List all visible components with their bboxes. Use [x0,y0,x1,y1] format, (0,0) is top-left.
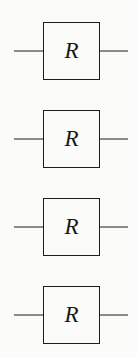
gate-label: R [64,127,78,150]
wire-left [14,227,44,228]
gate-label: R [64,215,78,238]
wire-left [14,315,44,316]
wire-right [99,227,128,228]
gate-label: R [64,303,78,326]
wire-left [14,51,44,52]
wire-right [99,315,128,316]
gate-row: R [0,110,137,168]
quantum-gate-figure: RRRR [0,0,137,357]
gate-box: R [43,110,100,168]
gate-label: R [64,39,78,62]
gate-box: R [43,22,100,80]
gate-row: R [0,22,137,80]
gate-row: R [0,198,137,256]
gate-box: R [43,286,100,344]
wire-right [99,51,128,52]
gate-box: R [43,198,100,256]
wire-right [99,139,128,140]
gate-row: R [0,286,137,344]
wire-left [14,139,44,140]
